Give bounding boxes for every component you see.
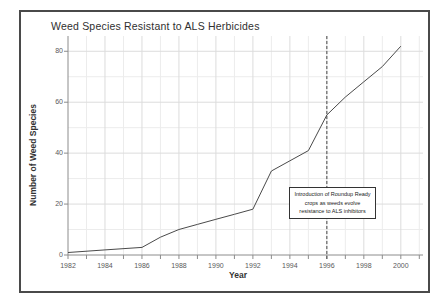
annotation-text-line2: crops as weeds evolve (290, 199, 375, 208)
x-axis-title: Year (68, 270, 408, 280)
y-tick-label-40: 40 (21, 149, 63, 156)
x-tick-label-1996: 1996 (314, 262, 340, 269)
grid-minor-lines (68, 36, 423, 255)
chart-title: Weed Species Resistant to ALS Herbicides (51, 20, 260, 32)
x-tick-label-1992: 1992 (240, 262, 266, 269)
x-tick-label-1982: 1982 (55, 262, 81, 269)
chart-canvas: Weed Species Resistant to ALS Herbicides… (0, 0, 446, 307)
annotation-box: Introduction of Roundup Ready crops as w… (289, 187, 376, 219)
annotation-text-line1: Introduction of Roundup Ready (290, 190, 375, 199)
x-tick-label-1988: 1988 (166, 262, 192, 269)
line-chart (68, 36, 423, 255)
x-tick-label-1994: 1994 (277, 262, 303, 269)
plot-area: Introduction of Roundup Ready crops as w… (68, 36, 423, 255)
x-tick-label-2000: 2000 (388, 262, 414, 269)
y-tick-label-0: 0 (21, 251, 63, 258)
x-tick-label-1998: 1998 (351, 262, 377, 269)
y-tick-label-20: 20 (21, 200, 63, 207)
annotation-text-line3: resistance to ALS inhibitors (290, 207, 375, 216)
figure-frame: Weed Species Resistant to ALS Herbicides… (19, 10, 430, 293)
x-tick-label-1990: 1990 (203, 262, 229, 269)
x-tick-label-1986: 1986 (129, 262, 155, 269)
axis-lines (68, 36, 423, 255)
grid-major-lines (68, 36, 423, 255)
y-tick-label-80: 80 (21, 47, 63, 54)
y-tick-label-60: 60 (21, 98, 63, 105)
axis-tick-marks (64, 51, 419, 259)
x-tick-label-1984: 1984 (92, 262, 118, 269)
